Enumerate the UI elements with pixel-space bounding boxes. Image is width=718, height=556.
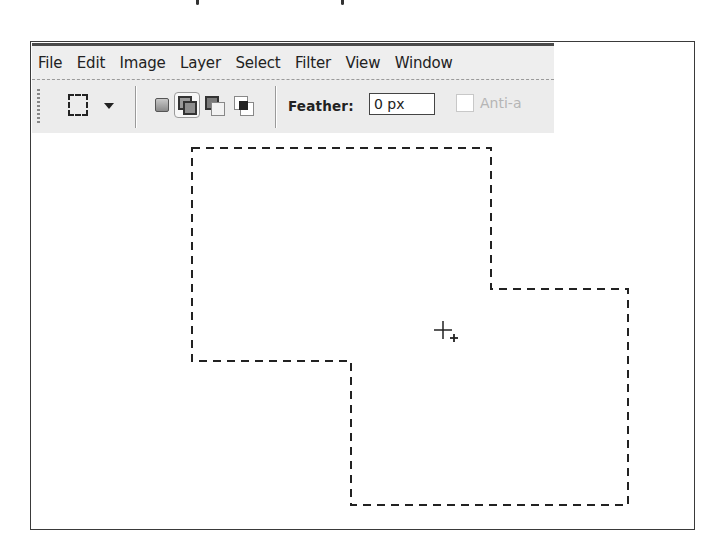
- selection-marquee: [192, 148, 628, 505]
- canvas[interactable]: [0, 0, 718, 556]
- crosshair-add-icon: [434, 321, 458, 342]
